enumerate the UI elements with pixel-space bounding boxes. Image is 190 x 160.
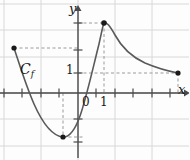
x-axis-unit-label: 1 [100,96,108,108]
axes [0,11,184,158]
curve-label: Cf [20,62,34,79]
function-graph-figure: y x 0 1 1 Cf [0,0,189,160]
marked-points [11,20,180,139]
graph-canvas [0,0,189,160]
x-axis-label: x [178,83,185,96]
point-maximum [101,20,107,26]
point-right-endpoint [175,70,180,75]
point-left-endpoint [11,45,16,50]
origin-label: 0 [82,96,90,108]
axis-arrowheads [75,5,190,97]
guide-lines [14,23,178,137]
curve-label-script: C [20,61,31,77]
point-minimum [60,134,65,139]
curve-label-subscript: f [31,69,34,79]
function-curve [14,23,178,137]
grid-lines [0,0,189,160]
y-axis-label: y [69,2,76,15]
y-axis-unit-label: 1 [66,64,74,76]
